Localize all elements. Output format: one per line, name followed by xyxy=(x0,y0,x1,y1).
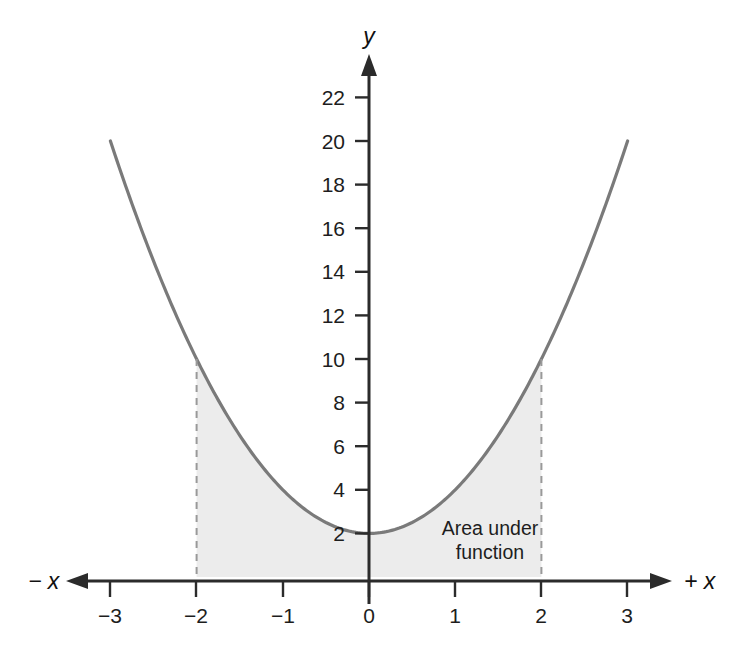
x-tick-label-1: 1 xyxy=(449,604,461,627)
x-tick-label-neg2: −2 xyxy=(184,604,208,627)
y-axis-label: y xyxy=(361,23,376,49)
y-tick-label-20: 20 xyxy=(322,130,345,153)
y-tick-label-22: 22 xyxy=(322,86,345,109)
y-tick-label-16: 16 xyxy=(322,217,345,240)
x-tick-label-0: 0 xyxy=(363,604,375,627)
area-annotation-line2: function xyxy=(456,541,524,563)
x-tick-label-2: 2 xyxy=(535,604,547,627)
x-axis-positive-label: + x xyxy=(684,568,717,594)
y-axis-ticks xyxy=(355,97,369,533)
x-tick-label-neg3: −3 xyxy=(98,604,122,627)
function-plot-svg: 22 20 18 16 14 12 10 8 6 4 2 −3 −2 −1 0 … xyxy=(0,0,737,649)
y-tick-label-18: 18 xyxy=(322,173,345,196)
y-tick-label-14: 14 xyxy=(322,260,346,283)
x-tick-label-neg1: −1 xyxy=(271,604,295,627)
x-tick-label-3: 3 xyxy=(621,604,633,627)
y-tick-label-8: 8 xyxy=(333,391,345,414)
y-tick-label-12: 12 xyxy=(322,304,345,327)
x-axis-ticks xyxy=(110,581,627,597)
y-tick-label-10: 10 xyxy=(322,348,345,371)
y-tick-label-4: 4 xyxy=(333,478,345,501)
y-axis-arrowhead xyxy=(361,54,377,76)
x-axis-negative-label: − x xyxy=(28,568,61,594)
chart-figure: 22 20 18 16 14 12 10 8 6 4 2 −3 −2 −1 0 … xyxy=(0,0,737,649)
x-axis-left-arrowhead xyxy=(66,573,88,589)
y-tick-label-6: 6 xyxy=(333,435,345,458)
y-tick-label-2: 2 xyxy=(333,522,345,545)
x-axis-right-arrowhead xyxy=(650,573,672,589)
area-annotation-line1: Area under xyxy=(442,517,539,539)
